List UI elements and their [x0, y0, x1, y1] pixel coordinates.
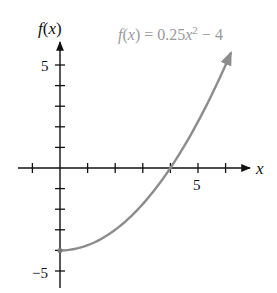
- x-axis: [18, 163, 250, 173]
- x-tick-label-5: 5: [193, 177, 201, 193]
- function-label: f(x) = 0.25x2 − 4: [118, 24, 223, 44]
- curve-start-point: [58, 248, 63, 253]
- y-tick-label-neg5: −5: [32, 265, 48, 281]
- x-axis-label: x: [255, 159, 264, 178]
- y-tick-label-5: 5: [41, 58, 49, 74]
- y-axis-label: f(x): [38, 19, 62, 38]
- function-curve: [60, 52, 231, 250]
- function-graph: f(x) x 5 5 −5 f(x) = 0.25x2 − 4: [0, 0, 277, 293]
